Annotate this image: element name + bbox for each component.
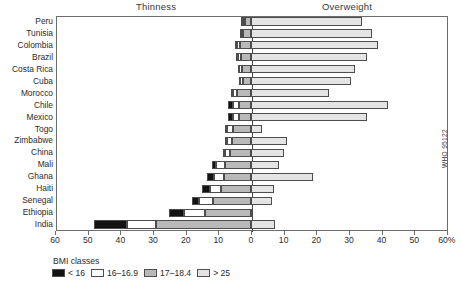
legend-swatch-c16 [91,269,104,277]
bar-row [56,64,448,76]
bar-segment [228,113,233,121]
bar-segment [251,173,313,181]
bar-segment [199,197,214,205]
legend-label: 17–18.4 [160,268,191,278]
bmi-chart: Thinness Overweight PeruTunisiaColombiaB… [0,0,462,288]
bar-segment [251,65,355,73]
country-label: Colombia [0,40,53,52]
bar-segment [241,53,251,61]
bar-segment [251,77,351,85]
x-tick-label: 50 [83,235,93,245]
country-label: India [0,219,53,231]
x-tick-label: 30 [148,235,158,245]
x-tick-label: 10 [279,235,289,245]
bar-segment [231,89,233,97]
country-label: Ghana [0,171,53,183]
country-label: Haiti [0,183,53,195]
country-label: Brazil [0,52,53,64]
bar-segment [243,77,251,85]
bar-segment [237,89,251,97]
bar-segment [251,137,287,145]
x-tick-label: 40 [116,235,126,245]
bar-row [56,195,448,207]
legend-item[interactable]: 17–18.4 [144,268,191,278]
bar-segment [239,101,251,109]
bars-layer [56,16,448,231]
bar-segment [228,101,233,109]
bar-row [56,100,448,112]
legend-item[interactable]: < 16 [52,268,85,278]
bar-segment [237,41,240,49]
x-tick-label: 20 [312,235,322,245]
country-label: Morocco [0,88,53,100]
country-label: Zimbabwe [0,135,53,147]
x-tick-label: 10 [214,235,224,245]
bar-segment [251,41,378,49]
bar-segment [227,137,232,145]
bar-segment [225,149,230,157]
bar-segment [233,101,239,109]
legend-label: 16–16.9 [107,268,138,278]
bar-segment [233,113,239,121]
bar-segment [225,137,227,145]
bar-row [56,183,448,195]
bar-segment [240,29,242,37]
x-axis: 6050403020100102030405060% [56,231,448,247]
x-tick-label: 50 [409,235,419,245]
bar-row [56,219,448,231]
bar-row [56,112,448,124]
bar-segment [240,41,251,49]
bar-segment [127,220,156,228]
bar-row [56,76,448,88]
bar-segment [202,185,210,193]
x-tick-label: 40 [377,235,387,245]
bar-segment [251,185,274,193]
bar-segment [207,173,214,181]
x-tick-label: 60% [438,235,455,245]
bar-segment [169,209,184,217]
bar-segment [210,185,221,193]
bar-segment [221,185,251,193]
bar-segment [251,149,284,157]
chart-title-overweight: Overweight [322,1,372,12]
bar-segment [156,220,251,228]
legend-swatch-c17 [144,269,157,277]
bar-row [56,16,448,28]
bar-segment [251,113,367,121]
legend-label: > 25 [213,268,230,278]
bar-segment [223,149,225,157]
country-label: China [0,147,53,159]
bar-segment [235,41,237,49]
bar-segment [239,113,251,121]
bar-segment [239,77,241,85]
legend-item[interactable]: 16–16.9 [91,268,138,278]
bar-segment [251,89,329,97]
bar-segment [227,125,232,133]
bar-segment [238,53,241,61]
bar-segment [251,125,262,133]
bar-segment [242,65,251,73]
bar-segment [225,125,228,133]
bar-segment [233,125,251,133]
bar-segment [251,197,272,205]
bar-segment [236,53,238,61]
bar-segment [184,209,205,217]
bar-segment [213,197,251,205]
country-label: Peru [0,16,53,28]
country-label: Chile [0,100,53,112]
country-label: Togo [0,124,53,136]
legend-title: BMI classes [52,256,230,266]
bar-segment [243,29,251,37]
bar-row [56,88,448,100]
bar-segment [251,220,275,228]
bar-row [56,135,448,147]
bar-row [56,207,448,219]
bar-segment [251,53,367,61]
x-tick-label: 0 [249,235,254,245]
country-label: Tunisia [0,28,53,40]
legend-item[interactable]: > 25 [197,268,230,278]
x-tick-label: 60 [50,235,60,245]
bar-segment [224,173,251,181]
legend-swatch-ow [197,269,210,277]
bar-segment [233,89,237,97]
